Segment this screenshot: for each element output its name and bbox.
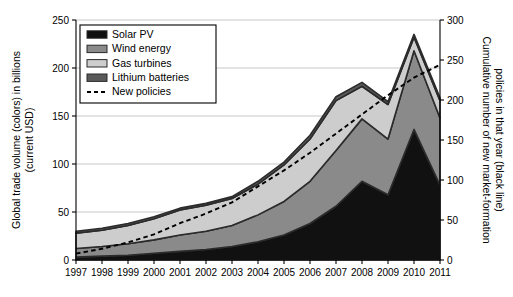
y2-axis-label-line1: Cumulative number of new market-formatio… xyxy=(481,36,493,243)
x-tick-label: 1998 xyxy=(91,267,114,278)
left-tick-label: 100 xyxy=(52,159,69,170)
x-tick-label: 2009 xyxy=(377,267,400,278)
chart-legend: Solar PVWind energyGas turbinesLithium b… xyxy=(80,25,216,103)
left-tick-label: 50 xyxy=(58,207,70,218)
x-tick-label: 2005 xyxy=(273,267,296,278)
x-tick-label: 2010 xyxy=(403,267,426,278)
right-tick-label: 50 xyxy=(447,215,459,226)
x-tick-label: 2003 xyxy=(221,267,244,278)
legend-label: Solar PV xyxy=(112,28,153,40)
right-tick-label: 200 xyxy=(447,95,464,106)
left-tick-label: 0 xyxy=(63,255,69,266)
y-axis-label-line2: (current USD) xyxy=(23,108,35,173)
x-tick-label: 2011 xyxy=(429,267,451,278)
left-tick-label: 250 xyxy=(52,15,69,26)
x-tick-label: 2008 xyxy=(351,267,374,278)
x-tick-label: 2006 xyxy=(299,267,322,278)
legend-swatch xyxy=(87,60,107,67)
legend-swatch xyxy=(87,45,107,52)
x-tick-label: 1999 xyxy=(117,267,140,278)
right-tick-label: 250 xyxy=(447,55,464,66)
x-tick-label: 2002 xyxy=(195,267,218,278)
right-tick-label: 300 xyxy=(447,15,464,26)
stacked-area-chart: 050100150200250 050100150200250300 19971… xyxy=(0,0,513,297)
x-tick-label: 2007 xyxy=(325,267,348,278)
legend-label: Gas turbines xyxy=(112,57,172,69)
left-tick-label: 200 xyxy=(52,63,69,74)
y2-axis-label-line2: policies in that year (black line) xyxy=(494,68,506,212)
x-tick-label: 2000 xyxy=(143,267,166,278)
x-tick-label: 2001 xyxy=(169,267,192,278)
chart-figure: 050100150200250 050100150200250300 19971… xyxy=(0,0,513,297)
y-axis-label-line1: Global trade volume (colors) in billions xyxy=(10,51,22,229)
x-tick-label: 1997 xyxy=(65,267,88,278)
legend-label: New policies xyxy=(112,85,171,97)
legend-swatch xyxy=(87,31,107,38)
legend-swatch xyxy=(87,74,107,81)
legend-label: Wind energy xyxy=(112,42,172,54)
x-tick-label: 2004 xyxy=(247,267,270,278)
left-tick-label: 150 xyxy=(52,111,69,122)
right-tick-label: 150 xyxy=(447,135,464,146)
right-tick-label: 0 xyxy=(447,255,453,266)
legend-label: Lithium batteries xyxy=(112,71,189,83)
right-tick-label: 100 xyxy=(447,175,464,186)
